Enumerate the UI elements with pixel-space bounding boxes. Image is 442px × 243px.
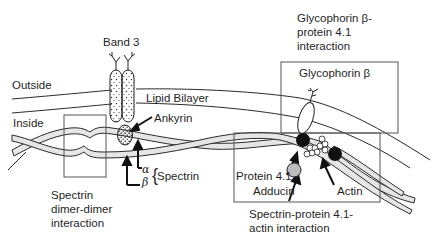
dimer-caption-line1: Spectrin	[51, 188, 93, 202]
ankyrin-protein	[118, 125, 133, 145]
adducin-label: Adducin	[253, 184, 295, 198]
protein41-node-right	[328, 147, 342, 161]
actin-label: Actin	[337, 184, 363, 198]
spectrin-label: Spectrin	[157, 169, 199, 183]
inside-label: Inside	[13, 116, 44, 130]
glycophorin-box-label: Glycophorin β	[299, 66, 370, 80]
lipid-bilayer-label: Lipid Bilayer	[146, 91, 209, 105]
glyco-title-line1: Glycophorin β-	[297, 11, 372, 25]
protein41-label: Protein 4.1	[236, 169, 292, 183]
band3-label: Band 3	[103, 35, 139, 49]
dimer-caption-line2: dimer-dimer	[51, 202, 112, 216]
actin-arrow	[325, 166, 334, 185]
protein41-node-top	[296, 133, 310, 147]
ankyrin-label: Ankyrin	[154, 111, 192, 125]
band3-protein	[109, 52, 135, 122]
actin-caption-line1: Spectrin-protein 4.1-	[249, 207, 353, 221]
actin-caption-line2: actin interaction	[249, 221, 330, 235]
outside-label: Outside	[12, 78, 52, 92]
glycophorin-protein	[294, 88, 318, 135]
beta-label: β	[142, 176, 148, 190]
dimer-dimer-box	[64, 115, 106, 177]
glyco-title-line3: interaction	[297, 39, 350, 53]
alpha-label: α	[142, 163, 149, 177]
dimer-caption-line3: interaction	[51, 216, 104, 230]
glyco-title-line2: protein 4.1	[297, 25, 351, 39]
